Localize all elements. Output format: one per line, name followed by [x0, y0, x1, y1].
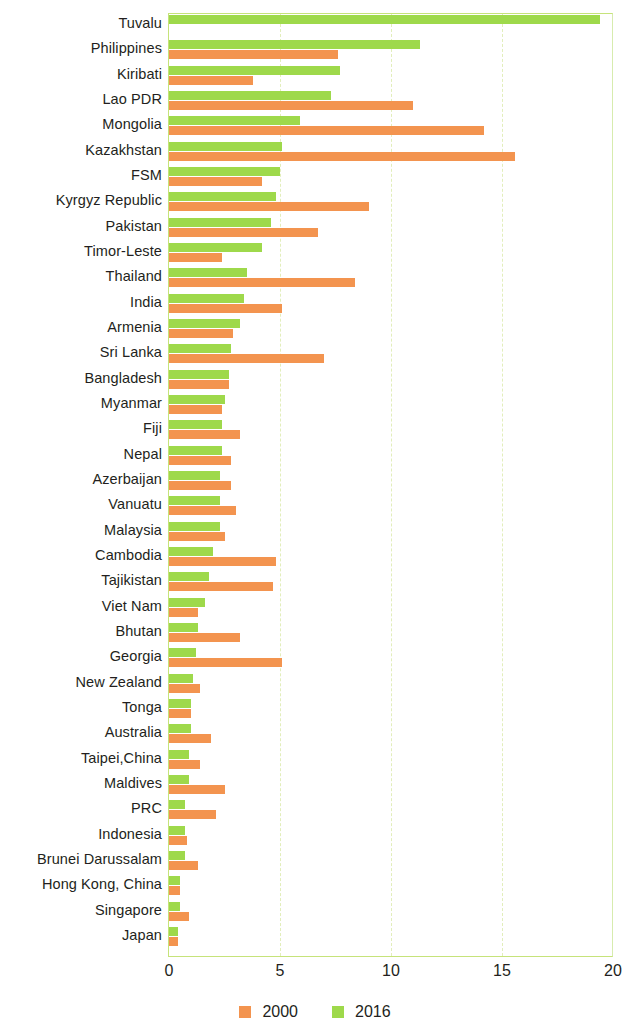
bar-2000: [169, 810, 216, 819]
bar-2000: [169, 709, 191, 718]
bar-2000: [169, 785, 225, 794]
x-tick-15: 15: [493, 962, 511, 980]
category-label: Indonesia: [0, 827, 162, 842]
bar-2016: [169, 319, 240, 328]
bar-2016: [169, 902, 180, 911]
bar-group: [169, 471, 613, 496]
category-label: Thailand: [0, 269, 162, 284]
bar-group: [169, 142, 613, 167]
category-label: Australia: [0, 725, 162, 740]
bar-2016: [169, 826, 185, 835]
bar-group: [169, 319, 613, 344]
category-label: Maldives: [0, 776, 162, 791]
bar-2016: [169, 851, 185, 860]
category-label: Kiribati: [0, 67, 162, 82]
bar-2016: [169, 572, 209, 581]
bar-2016: [169, 522, 220, 531]
bar-2000: [169, 278, 355, 287]
bar-2016: [169, 623, 198, 632]
category-axis-labels: TuvaluPhilippinesKiribatiLao PDRMongolia…: [0, 14, 162, 956]
bar-group: [169, 876, 613, 901]
category-label: India: [0, 295, 162, 310]
category-label: Tonga: [0, 700, 162, 715]
bar-group: [169, 724, 613, 749]
x-tick-10: 10: [382, 962, 400, 980]
bar-2000: [169, 329, 233, 338]
bar-2000: [169, 557, 276, 566]
bar-2000: [169, 76, 253, 85]
bar-group: [169, 775, 613, 800]
bar-2000: [169, 532, 225, 541]
category-label: Tuvalu: [0, 16, 162, 31]
category-label: Taipei,China: [0, 751, 162, 766]
bar-2016: [169, 775, 189, 784]
legend-label: 2000: [262, 1003, 298, 1021]
bar-group: [169, 395, 613, 420]
category-label: Nepal: [0, 447, 162, 462]
bar-2000: [169, 861, 198, 870]
bar-2000: [169, 684, 200, 693]
category-label: Kazakhstan: [0, 143, 162, 158]
x-axis-tick-labels: 05101520: [0, 962, 630, 986]
bar-2000: [169, 50, 338, 59]
bar-2016: [169, 15, 600, 24]
bar-group: [169, 192, 613, 217]
bar-2016: [169, 471, 220, 480]
bar-2016: [169, 66, 340, 75]
bar-2000: [169, 126, 484, 135]
category-label: Vanuatu: [0, 497, 162, 512]
bar-group: [169, 91, 613, 116]
category-label: Lao PDR: [0, 92, 162, 107]
bar-2000: [169, 937, 178, 946]
bar-group: [169, 623, 613, 648]
bar-2000: [169, 101, 413, 110]
category-label: FSM: [0, 168, 162, 183]
category-label: Brunei Darussalam: [0, 852, 162, 867]
bar-group: [169, 902, 613, 927]
bar-2016: [169, 268, 247, 277]
bar-2000: [169, 202, 369, 211]
bar-group: [169, 243, 613, 268]
bar-2016: [169, 750, 189, 759]
legend-label: 2016: [355, 1003, 391, 1021]
bar-2000: [169, 886, 180, 895]
bar-group: [169, 116, 613, 141]
horizontal-bar-chart: TuvaluPhilippinesKiribatiLao PDRMongolia…: [0, 0, 630, 1028]
bar-2016: [169, 598, 205, 607]
bar-2016: [169, 395, 225, 404]
category-label: Mongolia: [0, 117, 162, 132]
bar-2016: [169, 40, 420, 49]
bar-2016: [169, 446, 222, 455]
bar-2016: [169, 218, 271, 227]
bar-group: [169, 218, 613, 243]
category-label: Singapore: [0, 903, 162, 918]
legend-item-2000[interactable]: 2000: [239, 1003, 298, 1021]
bar-2000: [169, 456, 231, 465]
category-label: Bangladesh: [0, 371, 162, 386]
legend-item-2016[interactable]: 2016: [332, 1003, 391, 1021]
bar-group: [169, 294, 613, 319]
category-label: Kyrgyz Republic: [0, 193, 162, 208]
bar-group: [169, 572, 613, 597]
bar-2000: [169, 354, 324, 363]
bar-group: [169, 699, 613, 724]
bar-2016: [169, 648, 196, 657]
legend-swatch-2000: [239, 1006, 251, 1018]
bar-group: [169, 598, 613, 623]
bar-2016: [169, 496, 220, 505]
bar-2000: [169, 608, 198, 617]
bar-2016: [169, 91, 331, 100]
category-label: Fiji: [0, 421, 162, 436]
category-label: PRC: [0, 801, 162, 816]
bar-group: [169, 40, 613, 65]
x-tick-20: 20: [604, 962, 622, 980]
category-label: Pakistan: [0, 219, 162, 234]
bar-2016: [169, 547, 213, 556]
legend-swatch-2016: [332, 1006, 344, 1018]
bar-group: [169, 420, 613, 445]
bar-2016: [169, 800, 185, 809]
bar-2016: [169, 370, 229, 379]
bar-group: [169, 750, 613, 775]
bar-2016: [169, 674, 193, 683]
category-label: Tajikistan: [0, 573, 162, 588]
